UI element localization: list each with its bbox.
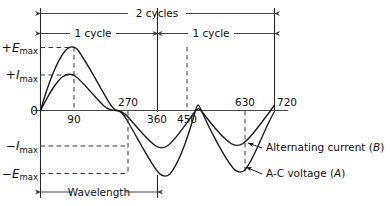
- label-i-max-negative: −Imax: [6, 139, 38, 155]
- label-e-max-negative: −Emax: [2, 167, 38, 183]
- figure-root: 2 cycles 1 cycle 1 cycle: [0, 0, 390, 206]
- dim-two-cycles: 2 cycles: [41, 7, 274, 19]
- label-e-max-positive: +Emax: [2, 41, 38, 57]
- dim-cycle1-label: 1 cycle: [74, 27, 111, 39]
- dim-one-cycle-second: 1 cycle: [159, 27, 275, 39]
- leader-current: [248, 143, 262, 148]
- dim-wavelength-label: Wavelength: [68, 186, 130, 198]
- label-alternating-current: Alternating current (B): [266, 141, 384, 153]
- x-label-360: 360: [147, 113, 167, 125]
- waveform-diagram: 2 cycles 1 cycle 1 cycle: [0, 0, 390, 206]
- dim-two-cycles-label: 2 cycles: [136, 7, 179, 19]
- x-label-630: 630: [235, 96, 255, 108]
- x-label-90: 90: [67, 113, 80, 125]
- dim-cycle2-label: 1 cycle: [192, 27, 229, 39]
- dim-one-cycle-first: 1 cycle: [41, 27, 157, 39]
- label-origin-zero: 0: [30, 104, 38, 118]
- y-axis-labels: +Emax +Imax −Imax −Emax 0: [2, 41, 38, 183]
- label-i-max-positive: +Imax: [6, 68, 38, 84]
- dim-wavelength: Wavelength: [41, 175, 158, 198]
- label-ac-voltage: A-C voltage (A): [266, 167, 345, 179]
- leader-voltage: [246, 167, 262, 174]
- x-label-450: 450: [177, 113, 197, 125]
- curve-callouts: Alternating current (B) A-C voltage (A): [246, 141, 384, 179]
- x-label-270: 270: [118, 96, 138, 108]
- x-label-720: 720: [277, 96, 297, 108]
